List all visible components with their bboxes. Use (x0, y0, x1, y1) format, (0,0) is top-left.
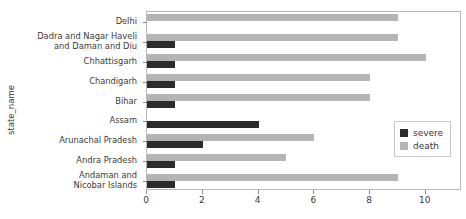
x-axis-tick (258, 190, 259, 194)
legend-swatch-icon (400, 142, 408, 150)
x-axis: 0246810 (146, 190, 461, 216)
bar-severe (147, 101, 175, 108)
y-axis-tick (143, 42, 147, 43)
y-axis-tick-label: Chhattisgarh (84, 56, 137, 66)
x-axis-tick (202, 190, 203, 194)
bar-chart: state_name DelhiDadra and Nagar Haveli a… (0, 0, 466, 219)
legend-label: severe (413, 128, 443, 138)
x-axis-tick (313, 190, 314, 194)
y-axis-category-labels: DelhiDadra and Nagar Haveli and Daman an… (0, 11, 143, 190)
y-axis-tick-label: Dadra and Nagar Haveli and Daman and Diu (37, 31, 137, 51)
x-axis-tick-label: 0 (143, 195, 149, 205)
y-axis-tick-label: Assam (110, 115, 138, 125)
y-axis-tick (143, 181, 147, 182)
bar-death (147, 154, 286, 161)
bar-rows (147, 12, 460, 189)
y-axis-tick-label: Andaman and Nicobar Islands (73, 170, 137, 190)
bar-death (147, 74, 370, 81)
x-axis-tick (425, 190, 426, 194)
x-axis-tick-label: 4 (255, 195, 261, 205)
y-axis-tick-label: Delhi (116, 16, 137, 26)
x-axis-tick (369, 190, 370, 194)
bar-severe (147, 161, 175, 168)
bar-death (147, 174, 398, 181)
legend-item-severe[interactable]: severe (400, 126, 443, 139)
y-axis-tick (143, 121, 147, 122)
bar-severe (147, 61, 175, 68)
bar-severe (147, 41, 175, 48)
y-axis-tick (143, 161, 147, 162)
y-axis-tick (143, 22, 147, 23)
legend-item-death[interactable]: death (400, 139, 443, 152)
y-axis-tick-label: Andra Pradesh (76, 155, 137, 165)
bar-severe (147, 121, 259, 128)
bar-death (147, 14, 398, 21)
chart-legend: severedeath (394, 121, 451, 157)
bar-death (147, 54, 426, 61)
x-axis-tick-label: 10 (419, 195, 430, 205)
x-axis-tick-label: 6 (310, 195, 316, 205)
y-axis-tick-label: Bihar (115, 96, 137, 106)
legend-swatch-icon (400, 129, 408, 137)
y-axis-tick-label: Chandigarh (89, 76, 137, 86)
bar-death (147, 134, 314, 141)
y-axis-tick-label: Arunachal Pradesh (59, 135, 137, 145)
y-axis-tick (143, 82, 147, 83)
x-axis-tick (146, 190, 147, 194)
bar-death (147, 94, 370, 101)
bar-severe (147, 141, 203, 148)
y-axis-tick (143, 141, 147, 142)
plot-area (146, 11, 461, 190)
x-axis-tick-label: 2 (199, 195, 205, 205)
bar-severe (147, 181, 175, 188)
bar-death (147, 34, 398, 41)
y-axis-tick (143, 62, 147, 63)
y-axis-tick (143, 102, 147, 103)
bar-severe (147, 81, 175, 88)
legend-label: death (413, 141, 439, 151)
x-axis-tick-label: 8 (366, 195, 372, 205)
